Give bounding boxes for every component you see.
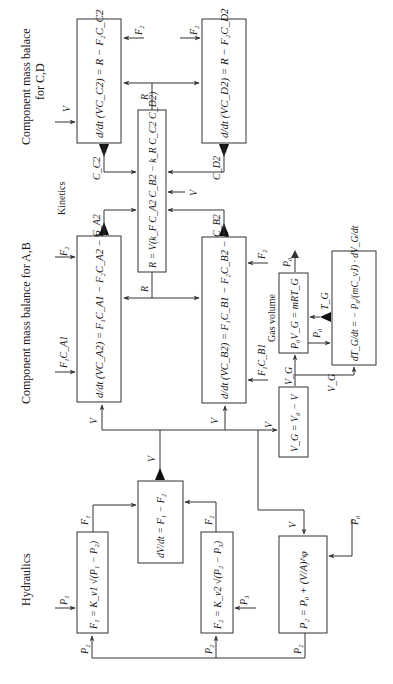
label-cb2: C_B2 [211,214,222,237]
svg-text:dV/dt = F₁ − F₂: dV/dt = F₁ − F₂ [155,493,166,558]
block-gas-volume: P₀V_G = mRT_G [279,273,308,353]
label-p0-gas-temp: P₀ [311,328,322,339]
block-a2: d/dt (VC_A2) = F₁C_A1 − F₂C_A2 − R [77,230,121,402]
label-p2-out: P₂ [292,644,303,655]
svg-text:d/dt (VC_A2) = F₁C_A1 − F₂C_A2: d/dt (VC_A2) = F₁C_A1 − F₂C_A2 − R [94,230,106,398]
label-p2-f1: P₂ [79,644,90,655]
label-v-dvdt: V [146,454,157,462]
block-gas-volume-vg: V_G = V₀ − V [279,387,308,457]
cd-section-title-line1: Component mass balace [19,28,33,145]
svg-text:dT_G/dt = − P₀/(mC_vJ) · dV_G/: dT_G/dt = − P₀/(mC_vJ) · dV_G/dt [350,225,361,361]
label-vg-1: V_G [283,367,294,385]
hydraulics-title: Hydraulics [19,553,33,606]
cd-section-title-line2: for C,D [33,63,47,100]
svg-text:d/dt (VC_B2) = F₁C_B1 − F₂C_B2: d/dt (VC_B2) = F₁C_B1 − F₂C_B2 − R [219,231,231,399]
svg-text:F₁ = K_v1 √(P₁ − P₂): F₁ = K_v1 √(P₁ − P₂) [88,540,100,630]
block-d2: d/dt (VC_D2) = R − F₂C_D2 [202,8,246,143]
label-f1cb1: F₁C_B1 [256,344,267,377]
label-p0-p2: P₀ [349,515,360,526]
label-p0-gas-top: P₀ [281,257,292,268]
kinetics-title: Kinetics [56,182,67,215]
block-c2: d/dt (VC_C2) = R − F₂C_C2 [77,9,121,143]
block-b2: d/dt (VC_B2) = F₁C_B1 − F₂C_B2 − R [202,231,246,403]
label-cd2: C_D2 [211,156,222,180]
gas-volume-title: Gas volume [266,293,277,342]
svg-text:d/dt (VC_D2) = R − F₂C_D2: d/dt (VC_D2) = R − F₂C_D2 [218,8,231,138]
label-p1: P₁ [58,595,69,606]
block-f1: F₁ = K_v1 √(P₁ − P₂) [77,532,108,633]
label-f1: F₁ [79,515,90,526]
block-gas-temperature: dT_G/dt = − P₀/(mC_vJ) · dV_G/dt [332,225,376,365]
label-f2-b2: F₂ [256,249,267,260]
label-ca2: C_A2 [91,214,102,237]
block-dvdt: dV/dt = F₁ − F₂ [138,481,183,563]
label-v-b2: V [209,416,220,424]
block-p2: P₂ = P₀ + (V/A)^φ [279,536,327,633]
label-vg-2: V_G [326,374,337,392]
svg-text:P₂ = P₀ + (V/A)^φ: P₂ = P₀ + (V/A)^φ [298,551,310,630]
label-v-c2: V [61,104,72,112]
block-f2: F₂ = K_v2 √(P₂ − P₃) [201,532,233,633]
label-tg: T_G [319,292,330,310]
label-v-p2: V [287,520,298,528]
label-cc2: C_C2 [91,157,102,180]
label-p2-f2: P₂ [203,644,214,655]
label-v-a2: V [88,416,99,424]
block-diagram: Component mass balace for C,D Kinetics C… [0,0,393,684]
label-p3: P₃ [238,595,249,606]
label-r-top: R [139,94,150,101]
label-f2: F₂ [203,515,214,526]
ab-section-title: Component mass balance for A,B [19,242,33,404]
label-v-kinetics: V [188,188,199,196]
label-f2-d2: F₂ [188,25,199,36]
svg-text:R = V(k_F C_A2 C_B2 − k_R C_C2: R = V(k_F C_A2 C_B2 − k_R C_C2 C_D2) [147,91,159,269]
block-kinetics: R = V(k_F C_A2 C_B2 − k_R C_C2 C_D2) [138,91,166,272]
label-r-bottom: R [139,286,150,293]
label-f2-a2: F₂ [58,246,69,257]
svg-text:F₂ = K_v2 √(P₂ − P₃): F₂ = K_v2 √(P₂ − P₃) [212,540,224,630]
label-f1ca1: F₁C_A1 [58,336,69,369]
label-f2-c2: F₂ [133,25,144,36]
svg-text:P₀V_G = mRT_G: P₀V_G = mRT_G [289,278,300,350]
svg-text:V_G = V₀ − V: V_G = V₀ − V [289,393,300,452]
svg-text:d/dt (VC_C2) = R − F₂C_C2: d/dt (VC_C2) = R − F₂C_C2 [93,9,106,138]
label-v-vg: V [263,420,274,428]
